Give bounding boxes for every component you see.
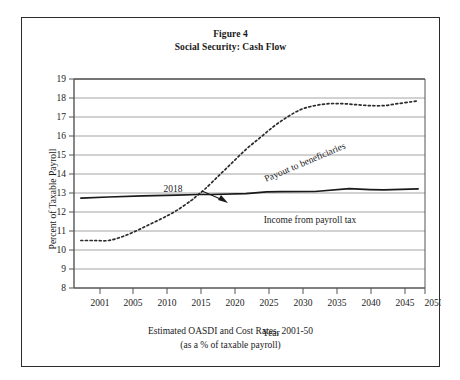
y-tick-label: 17 <box>57 112 67 122</box>
figure-caption-line2: (as a % of taxable payroll) <box>22 338 439 352</box>
y-tick-label: 8 <box>61 283 66 293</box>
figure-caption-line1: Estimated OASDI and Cost Rates, 2001-50 <box>22 324 439 338</box>
x-tick-label: 2001 <box>91 298 110 308</box>
y-tick-label: 18 <box>57 93 67 103</box>
x-tick-label: 2010 <box>158 298 177 308</box>
x-tick-label: 2040 <box>362 298 381 308</box>
x-tick-label: 2005 <box>124 298 143 308</box>
y-tick-label: 10 <box>57 245 67 255</box>
x-tick-label: 2030 <box>294 298 313 308</box>
y-tick-label: 12 <box>57 207 67 217</box>
x-tick-label: 2050 <box>425 298 442 308</box>
x-tick-label: 2045 <box>396 298 415 308</box>
x-tick-labels: 2001 2005 2010 2015 2020 2025 2030 2035 … <box>91 298 442 308</box>
gridlines-horizontal <box>74 79 425 269</box>
plot-axes <box>74 79 425 288</box>
figure-caption: Estimated OASDI and Cost Rates, 2001-50 … <box>22 324 439 352</box>
x-tick-label: 2025 <box>260 298 279 308</box>
x-tick-label: 2020 <box>226 298 245 308</box>
y-tick-label: 13 <box>57 188 67 198</box>
y-tick-label: 19 <box>57 74 67 84</box>
figure-frame: Figure 4 Social Security: Cash Flow Perc… <box>21 17 440 367</box>
y-tick-labels: 19 18 17 16 15 14 13 12 11 10 9 8 <box>57 74 67 293</box>
series-label-payout-to-beneficiaries: Payout to beneficiaries <box>263 141 347 184</box>
y-tick-label: 16 <box>57 131 67 141</box>
x-tick-marks <box>100 288 425 294</box>
y-tick-marks <box>69 79 74 288</box>
y-tick-label: 14 <box>57 169 67 179</box>
annotation-2018-label: 2018 <box>164 184 183 194</box>
y-tick-label: 11 <box>57 226 66 236</box>
series-line-payout-to-beneficiaries <box>81 101 418 241</box>
series-label-income-from-payroll-tax: Income from payroll tax <box>264 215 357 225</box>
x-tick-label: 2015 <box>192 298 211 308</box>
cash-flow-line-chart: 19 18 17 16 15 14 13 12 11 10 9 8 <box>22 18 441 368</box>
y-tick-label: 15 <box>57 150 67 160</box>
x-tick-label: 2035 <box>328 298 347 308</box>
y-tick-label: 9 <box>61 264 66 274</box>
